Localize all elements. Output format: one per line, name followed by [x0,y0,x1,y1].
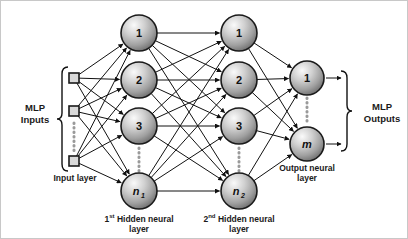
hidden1-sublabel-4: 1 [141,192,145,199]
hidden1-node-3: 3 [121,108,157,144]
mlp-outputs-line2: Outputs [357,113,407,125]
mlp-inputs-line2: Inputs [7,114,63,126]
hidden2-label-1: 1 [236,27,242,39]
mlp-outputs-line1: MLP [357,101,407,113]
input-node-2 [69,106,79,116]
input-to-hidden1-edge-1-2 [79,78,120,79]
hidden2-node-2: 2 [221,62,257,98]
input-layer-text: Input layer [41,173,109,183]
output-layer-line1: Output neural [259,163,355,173]
hidden2-caption-line2: layer [187,224,291,234]
output-layer-caption: Output neural layer [259,163,355,183]
mlp-inputs-label: MLP Inputs [7,102,63,126]
hidden2-node-1: 1 [221,15,257,51]
mlp-diagram: 123n1123n21m MLP Inputs MLP Outputs Inpu… [0,0,408,239]
hidden2-label-3: 3 [236,120,242,132]
output-node-2: m [290,127,324,161]
hidden1-node-4: n1 [121,173,157,209]
hidden1-caption-line2: layer [87,224,191,234]
hidden1-label-4: n [133,185,140,197]
hidden1-to-hidden2-edge-3-4 [154,136,223,181]
hidden2-caption: 2nd Hidden neural layer [187,211,291,234]
hidden1-to-hidden2-edge-1-2 [155,41,221,72]
hidden1-to-hidden2-edge-2-4 [151,93,226,176]
hidden1-to-hidden2-edge-4-3 [154,137,223,182]
hidden2-ordinal-suffix: nd [208,213,215,219]
input-node-3 [69,156,79,166]
output-label-2: m [302,138,312,150]
output-label-1: 1 [304,72,310,84]
mlp-outputs-label: MLP Outputs [357,101,407,125]
hidden2-node-3: 3 [221,108,257,144]
hidden1-to-hidden2-edge-4-1 [149,49,229,175]
hidden1-label-2: 2 [136,74,142,86]
hidden2-caption-line1: 2nd Hidden neural [187,211,291,224]
hidden2-sublabel-4: 2 [240,192,245,199]
hidden2-node-4: n2 [221,173,257,209]
input-to-hidden1-edge-3-2 [77,95,127,157]
hidden2-to-output-edge-2-1 [257,79,289,80]
hidden1-caption-rest: Hidden neural [115,214,174,224]
hidden1-caption: 1st Hidden neural layer [87,211,191,234]
input-to-hidden1-edge-2-4 [77,115,127,176]
hidden1-node-2: 2 [121,62,157,98]
output-layer-line2: layer [259,173,355,183]
hidden2-label-2: 2 [236,74,242,86]
hidden1-to-hidden2-edge-1-4 [149,48,229,174]
hidden2-caption-rest: Hidden neural [216,214,275,224]
hidden2-to-output-edge-1-1 [254,43,292,68]
output-node-1: 1 [290,61,324,95]
hidden2-label-4: n [233,185,240,197]
mlp-inputs-line1: MLP [7,102,63,114]
hidden1-caption-line1: 1st Hidden neural [87,211,191,224]
hidden1-node-1: 1 [121,15,157,51]
input-node-1 [69,73,79,83]
hidden1-to-hidden2-edge-4-2 [151,94,226,177]
output-brace [341,71,352,151]
hidden1-label-3: 3 [136,120,142,132]
input-to-hidden1-edge-3-1 [76,50,130,156]
input-layer-caption: Input layer [41,173,109,183]
input-to-hidden1-edge-2-3 [79,112,120,121]
hidden1-label-1: 1 [136,27,142,39]
